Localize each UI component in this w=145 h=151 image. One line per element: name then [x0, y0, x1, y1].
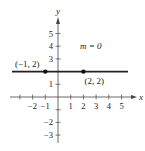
y-axis-label: y: [55, 6, 60, 16]
y-tick-label: −3: [44, 130, 53, 140]
y-tick-label: 4: [49, 41, 54, 51]
point-label: (−1, 2): [15, 59, 40, 69]
x-tick-label: −1: [41, 101, 50, 111]
x-tick-label: 4: [107, 101, 112, 111]
x-tick-label: −2: [28, 101, 37, 111]
x-tick-label: 1: [69, 101, 73, 111]
x-tick-label: 2: [81, 101, 85, 111]
data-point: [81, 69, 85, 73]
y-tick-label: −2: [44, 117, 53, 127]
x-tick-label: 5: [119, 101, 123, 111]
y-tick-label: 3: [49, 54, 53, 64]
coordinate-plot: xy−2−1123451345−3−2(−1, 2)(2, 2)m = 0: [0, 0, 145, 151]
point-label: (2, 2): [84, 76, 104, 86]
y-axis-arrow-icon: [56, 17, 60, 24]
y-tick-label: 5: [49, 29, 53, 39]
x-axis-label: x: [138, 92, 143, 102]
x-tick-label: 3: [94, 101, 98, 111]
slope-annotation: m = 0: [80, 41, 102, 51]
x-axis-arrow-icon: [131, 95, 137, 99]
data-point: [43, 69, 47, 73]
y-tick-label: 1: [49, 79, 53, 89]
